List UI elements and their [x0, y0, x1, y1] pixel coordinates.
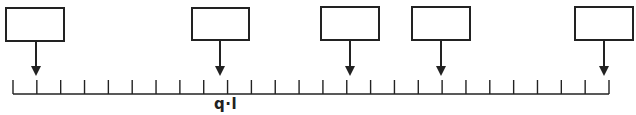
load-boxes — [6, 7, 633, 76]
arrow-down-icon — [31, 66, 41, 76]
box-rect — [575, 7, 633, 40]
arrow-down-icon — [436, 66, 446, 76]
load-box-1 — [6, 8, 64, 76]
axis-label: q·l — [214, 95, 237, 113]
box-rect — [412, 7, 470, 40]
box-rect — [192, 8, 249, 40]
arrow-down-icon — [599, 66, 609, 76]
load-box-5 — [575, 7, 633, 76]
load-diagram — [0, 0, 636, 115]
load-box-4 — [412, 7, 470, 76]
load-box-3 — [321, 7, 379, 76]
arrow-down-icon — [345, 66, 355, 76]
arrow-down-icon — [215, 66, 225, 76]
load-box-2 — [192, 8, 249, 76]
box-rect — [321, 7, 379, 40]
box-rect — [6, 8, 64, 41]
beam-axis — [13, 80, 609, 94]
